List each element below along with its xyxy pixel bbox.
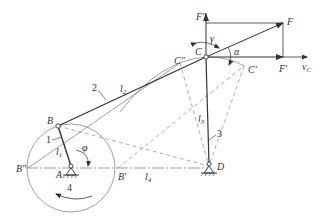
four-bar-linkage-diagram: F″ F F′ C C″ C′ B B″ B′ A D γ α φ vC 2 1… <box>0 0 323 219</box>
rocker-link-3 <box>206 57 209 164</box>
coupler-link-2 <box>58 57 206 126</box>
label-F-dprime: F″ <box>195 11 207 22</box>
label-A: A <box>55 169 63 180</box>
label-phi: φ <box>82 142 88 153</box>
alpha-angle-arc <box>228 47 231 65</box>
label-vc: vC <box>302 61 311 74</box>
label-C-prime: C′ <box>248 64 258 75</box>
label-F-prime: F′ <box>278 63 288 74</box>
label-B-dprime: B″ <box>16 163 27 174</box>
ground-support-D <box>201 162 217 176</box>
label-l1: l1 <box>56 146 62 159</box>
label-link-3: 3 <box>217 128 222 139</box>
label-link-2: 2 <box>92 82 97 93</box>
joint-C <box>204 55 208 59</box>
label-link-4: 4 <box>67 182 72 193</box>
joint-B <box>56 124 60 128</box>
label-gamma: γ <box>210 33 215 44</box>
label-l3: l3 <box>198 113 205 126</box>
label-C: C <box>195 46 202 57</box>
label-l4: l4 <box>145 171 152 184</box>
label-l2: l2 <box>120 83 127 96</box>
leader-link-3 <box>209 135 216 140</box>
rotation-direction-arrow <box>56 194 92 199</box>
ground-support-A <box>63 164 79 178</box>
leader-link-1 <box>52 137 62 140</box>
label-B-prime: B′ <box>118 171 127 182</box>
dashed-Cd-to-D <box>209 66 244 166</box>
force-F-arrow <box>206 23 283 57</box>
label-link-1: 1 <box>46 134 51 145</box>
dashed-Bd-to-Cd <box>118 66 244 168</box>
label-D: D <box>216 161 225 172</box>
label-alpha: α <box>234 46 240 57</box>
label-C-dprime: C″ <box>174 55 186 66</box>
label-B: B <box>47 115 53 126</box>
leader-link-2 <box>98 90 106 100</box>
label-F: F <box>286 16 294 27</box>
